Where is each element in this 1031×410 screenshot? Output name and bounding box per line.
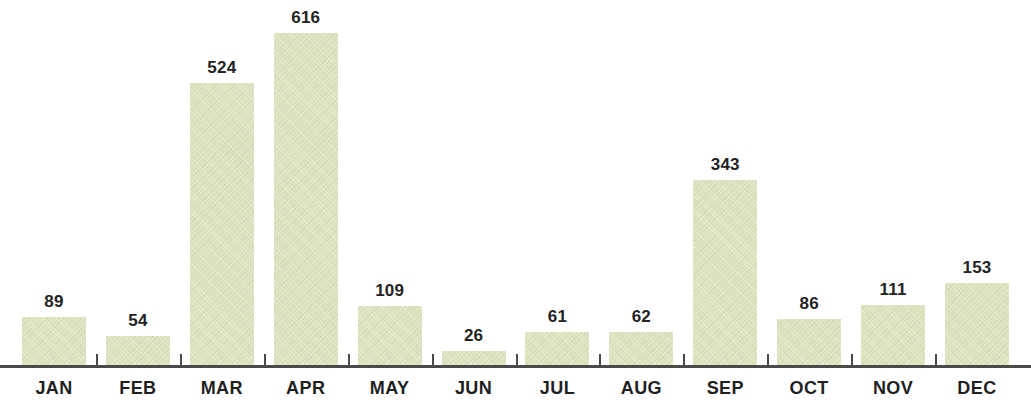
x-axis-label-sep: SEP [693,371,757,399]
x-axis-label-jun: JUN [442,371,506,399]
axis-tick [516,354,518,365]
x-axis-label-aug: AUG [609,371,673,399]
x-axis-label-oct: OCT [777,371,841,399]
axis-tick [599,354,601,365]
axis-tick [180,354,182,365]
x-axis-label-jan: JAN [22,371,86,399]
x-axis-label-mar: MAR [190,371,254,399]
axis-tick [851,354,853,365]
x-axis-label-feb: FEB [106,371,170,399]
axis-tick [935,354,937,365]
axis-tick [432,354,434,365]
axis-tick [96,354,98,365]
x-axis-label-dec: DEC [945,371,1009,399]
axis-tick [264,354,266,365]
x-axis-label-may: MAY [358,371,422,399]
axis-tick [683,354,685,365]
axis-tick-group [0,0,1031,365]
x-axis-label-jul: JUL [525,371,589,399]
x-axis-label-apr: APR [274,371,338,399]
x-axis-line [0,365,1031,368]
axis-tick [348,354,350,365]
plot-area: 895452461610926616234386111153 [0,0,1031,365]
x-axis-labels: JANFEBMARAPRMAYJUNJULAUGSEPOCTNOVDEC [22,371,1009,410]
axis-tick [767,354,769,365]
x-axis-label-nov: NOV [861,371,925,399]
bar-chart: 895452461610926616234386111153 JANFEBMAR… [0,0,1031,410]
